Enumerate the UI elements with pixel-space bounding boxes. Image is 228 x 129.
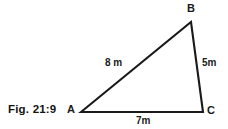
figure-caption: Fig. 21:9 <box>8 104 56 116</box>
figure-container: B A C 8 m 5m 7m Fig. 21:9 <box>0 0 228 129</box>
side-length-label-ab: 8 m <box>105 58 122 68</box>
triangle-outline <box>81 22 203 112</box>
side-length-label-ac: 7m <box>136 116 150 126</box>
vertex-label-c: C <box>207 105 215 116</box>
vertex-label-b: B <box>187 3 195 14</box>
side-length-label-bc: 5m <box>202 58 216 68</box>
vertex-label-a: A <box>67 104 75 115</box>
